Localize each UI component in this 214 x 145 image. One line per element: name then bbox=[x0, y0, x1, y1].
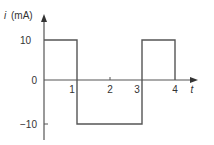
current-waveform-chart: i (mA) 10 0 −10 1 2 3 4 t bbox=[0, 0, 214, 145]
x-tick-label-1: 1 bbox=[69, 84, 75, 95]
y-tick-label-neg10: −10 bbox=[20, 119, 37, 130]
y-tick-label-10: 10 bbox=[20, 35, 32, 46]
y-tick-label-0: 0 bbox=[31, 75, 37, 86]
x-tick-label-3: 3 bbox=[134, 84, 140, 95]
current-waveform-line bbox=[44, 40, 175, 124]
x-axis-arrow-icon bbox=[190, 77, 198, 83]
x-tick-label-2: 2 bbox=[107, 84, 113, 95]
y-axis-label: i (mA) bbox=[4, 10, 33, 21]
x-axis-label: t bbox=[191, 84, 195, 95]
x-tick-label-4: 4 bbox=[172, 84, 178, 95]
y-axis-arrow-icon bbox=[41, 14, 47, 22]
